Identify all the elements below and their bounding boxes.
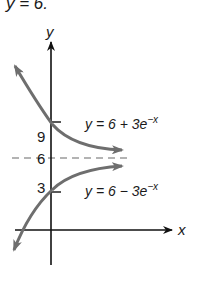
y-axis-label: y xyxy=(45,23,55,40)
graph: y = 6. y x 9 6 3 y = 6 + 3e−x y = 6 − 3e… xyxy=(0,0,199,281)
caption-fragment: y = 6. xyxy=(5,0,48,13)
tick-label-9: 9 xyxy=(37,128,45,145)
tick-label-6: 6 xyxy=(37,150,45,167)
upper-curve-left xyxy=(15,66,52,124)
lower-curve-label: y = 6 − 3e−x xyxy=(84,181,159,199)
upper-curve-label: y = 6 + 3e−x xyxy=(84,114,159,132)
lower-curve-left xyxy=(14,190,52,250)
tick-label-3: 3 xyxy=(37,179,45,196)
x-axis-label: x xyxy=(177,221,186,238)
